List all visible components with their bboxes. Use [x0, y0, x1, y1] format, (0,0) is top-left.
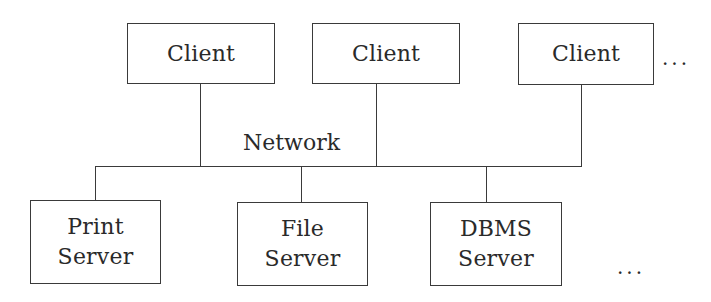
print-server-box: Print Server — [30, 200, 161, 284]
client-1-connector — [200, 83, 201, 167]
network-bus-line — [95, 166, 582, 167]
file-server-connector — [301, 166, 302, 203]
servers-ellipsis: ... — [617, 257, 645, 277]
client-label: Client — [167, 39, 235, 69]
client-box-1: Client — [127, 23, 275, 84]
client-2-connector — [376, 83, 377, 167]
server-label-line2: Server — [58, 242, 134, 272]
client-label: Client — [552, 39, 620, 69]
file-server-box: File Server — [237, 202, 368, 286]
client-3-connector — [581, 84, 582, 167]
print-server-connector — [95, 166, 96, 201]
server-label-line2: Server — [458, 244, 534, 274]
client-label: Client — [352, 39, 420, 69]
client-box-2: Client — [312, 23, 460, 84]
server-label-line1: File — [281, 214, 324, 244]
network-label: Network — [243, 131, 340, 155]
clients-ellipsis: ... — [662, 48, 690, 68]
server-label-line2: Server — [265, 244, 341, 274]
client-box-3: Client — [518, 23, 654, 85]
dbms-server-box: DBMS Server — [430, 202, 562, 286]
server-label-line1: Print — [67, 212, 123, 242]
server-label-line1: DBMS — [460, 214, 532, 244]
dbms-server-connector — [486, 166, 487, 203]
